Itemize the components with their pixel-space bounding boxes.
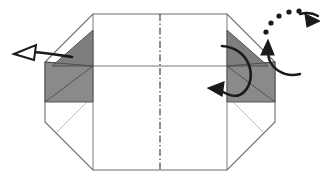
rotate-dot-2 [268,20,273,25]
origami-diagram-root [0,0,320,184]
rotate-dot-1 [263,29,268,34]
left-flap-lower-triangle [45,62,93,102]
rotate-dot-3 [276,13,281,18]
rotate-dot-4 [286,9,291,14]
origami-figure [0,0,320,184]
